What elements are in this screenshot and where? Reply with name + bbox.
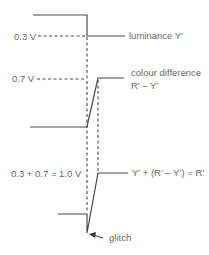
label-0-3v: 0.3 V xyxy=(14,31,37,42)
dashed-guides xyxy=(37,36,98,212)
colour-difference-waveform xyxy=(30,78,124,127)
label-sum-voltage: 0.3 + 0.7 = 1.0 V xyxy=(11,168,82,179)
label-glitch: glitch xyxy=(109,232,131,243)
label-colour-difference: colour difference xyxy=(131,67,201,78)
label-colour-difference-formula: R’ – Y’ xyxy=(131,80,158,91)
label-0-7v: 0.7 V xyxy=(12,73,35,84)
label-result: Y’ + (R’ – Y’) = R’ xyxy=(132,167,205,178)
glitch-arrow-icon xyxy=(89,232,103,238)
label-luminance: luminance Y’ xyxy=(129,30,183,41)
luminance-waveform xyxy=(33,15,125,36)
sum-waveform xyxy=(58,173,128,233)
signal-diagram: 0.3 V 0.7 V 0.3 + 0.7 = 1.0 V luminance … xyxy=(0,0,209,255)
